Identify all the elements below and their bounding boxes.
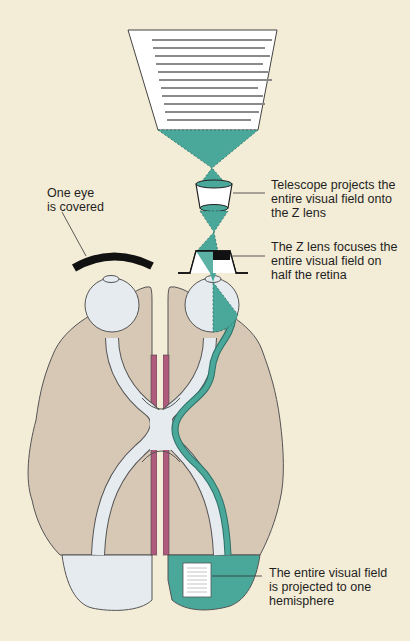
right-eye	[185, 273, 239, 332]
midline-bar-right	[163, 355, 169, 555]
right-occipital-lobe	[168, 555, 260, 610]
eye-cover-leader-line	[62, 212, 86, 256]
split-brain-diagram	[0, 0, 410, 641]
left-eye	[85, 276, 139, 333]
eye-covered-label: One eye is covered	[47, 186, 104, 214]
projected-field-page	[183, 563, 211, 597]
z-lens-label: The Z lens focuses the entire visual fie…	[271, 240, 397, 282]
telescope-label: Telescope projects the entire visual fie…	[271, 178, 395, 220]
midline-bar-left	[151, 355, 157, 555]
left-hemisphere	[28, 287, 152, 555]
visual-field-screen	[128, 30, 277, 130]
light-cone-lower	[196, 211, 228, 252]
telescope-icon	[196, 180, 232, 212]
light-cone-upper	[158, 130, 258, 184]
left-occipital-lobe	[62, 555, 152, 610]
z-lens-icon	[178, 251, 248, 273]
hemisphere-label: The entire visual field is projected to …	[269, 566, 387, 608]
eye-cover-icon	[74, 256, 152, 268]
